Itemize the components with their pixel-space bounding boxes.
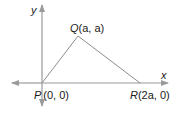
triangle-pqr <box>42 36 140 83</box>
coordinate-diagram: y x Q(a, a) P(0, 0) R(2a, 0) <box>0 0 178 114</box>
x-axis-label: x <box>160 69 167 81</box>
vertex-p-label: P(0, 0) <box>34 89 69 101</box>
vertex-q-label: Q(a, a) <box>70 22 104 34</box>
vertex-p-coords: (0, 0) <box>43 89 69 101</box>
edge-qr <box>78 36 140 83</box>
vertex-p-name: P <box>34 89 42 101</box>
vertex-r-name: R <box>130 89 138 101</box>
y-axis-label: y <box>30 4 38 16</box>
edge-pq <box>42 36 78 83</box>
vertex-q-coords: (a, a) <box>79 22 105 34</box>
vertex-r-coords: (2a, 0) <box>138 89 170 101</box>
vertex-r-label: R(2a, 0) <box>130 89 170 101</box>
